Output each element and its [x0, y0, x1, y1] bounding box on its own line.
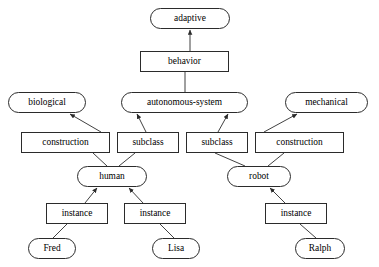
node-label: subclass	[132, 138, 163, 147]
concept-node-mechanical[interactable]: mechanical	[285, 92, 368, 113]
node-label: autonomous-system	[147, 98, 222, 107]
concept-node-autonomous-system[interactable]: autonomous-system	[121, 92, 248, 113]
relation-node-behavior[interactable]: behavior	[140, 51, 229, 72]
relation-node-construction-1[interactable]: construction	[21, 132, 110, 153]
edge-instance-1-to-fred	[53, 224, 67, 238]
edge-construction-1-to-biological	[70, 114, 101, 132]
edge-instance-3-to-ralph	[300, 224, 316, 238]
node-label: instance	[140, 209, 171, 218]
relation-node-instance-2[interactable]: instance	[124, 203, 186, 224]
edge-subclass-1-to-autonomous-system	[137, 114, 146, 132]
concept-node-lisa[interactable]: Lisa	[152, 238, 200, 259]
node-label: human	[99, 172, 125, 181]
edge-instance-1-to-human	[85, 188, 97, 203]
node-label: adaptive	[174, 14, 206, 23]
relation-node-construction-2[interactable]: construction	[255, 132, 344, 153]
concept-node-fred[interactable]: Fred	[28, 238, 76, 259]
edge-instance-2-to-lisa	[160, 224, 174, 238]
node-label: construction	[42, 138, 88, 147]
node-label: instance	[62, 209, 93, 218]
node-label: behavior	[168, 57, 201, 66]
edge-instance-2-to-human	[129, 188, 143, 203]
relation-node-instance-3[interactable]: instance	[265, 203, 327, 224]
semantic-network-diagram: adaptivebehaviorbiologicalautonomous-sys…	[0, 0, 379, 267]
node-label: instance	[281, 209, 312, 218]
relation-node-subclass-2[interactable]: subclass	[186, 132, 248, 153]
concept-node-human[interactable]: human	[77, 166, 147, 187]
node-label: biological	[28, 98, 66, 107]
edge-construction-2-to-robot	[268, 153, 284, 166]
concept-node-adaptive[interactable]: adaptive	[150, 8, 230, 29]
node-label: mechanical	[305, 98, 348, 107]
concept-node-ralph[interactable]: Ralph	[295, 238, 345, 259]
node-label: construction	[276, 138, 322, 147]
edge-construction-1-to-human	[93, 153, 107, 166]
node-label: Lisa	[168, 244, 184, 253]
node-label: robot	[249, 172, 269, 181]
edge-construction-2-to-mechanical	[264, 114, 297, 132]
concept-node-robot[interactable]: robot	[227, 166, 291, 187]
edge-subclass-2-to-robot	[215, 153, 245, 166]
node-label: subclass	[201, 138, 232, 147]
relation-node-subclass-1[interactable]: subclass	[117, 132, 179, 153]
edge-subclass-1-to-human	[119, 153, 135, 166]
relation-node-instance-1[interactable]: instance	[46, 203, 108, 224]
concept-node-biological[interactable]: biological	[8, 92, 86, 113]
edge-instance-3-to-robot	[270, 188, 285, 203]
node-label: Fred	[43, 244, 60, 253]
node-label: Ralph	[309, 244, 331, 253]
edge-subclass-2-to-autonomous-system	[218, 114, 228, 132]
